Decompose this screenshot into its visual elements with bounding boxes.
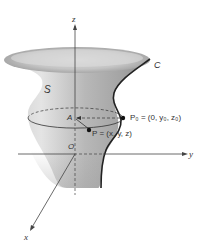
origin-label: O [68, 143, 74, 151]
curve-c-label: C [154, 61, 161, 70]
point-a-label: A [67, 114, 72, 122]
point-p0 [121, 116, 125, 120]
surface-s [4, 47, 150, 188]
point-p-label: P = (x, y, z) [92, 130, 132, 138]
z-axis-label: z [72, 15, 76, 24]
point-p [87, 128, 91, 132]
x-axis-label: x [24, 233, 28, 242]
surface-of-revolution-diagram: z y x O S C A P₀ = (0, y₀, z₀) P = (x, y… [0, 0, 202, 244]
surface-s-label: S [44, 85, 51, 95]
point-p0-label: P₀ = (0, y₀, z₀) [130, 114, 181, 122]
y-axis-label: y [189, 150, 193, 159]
diagram-svg [0, 0, 202, 244]
